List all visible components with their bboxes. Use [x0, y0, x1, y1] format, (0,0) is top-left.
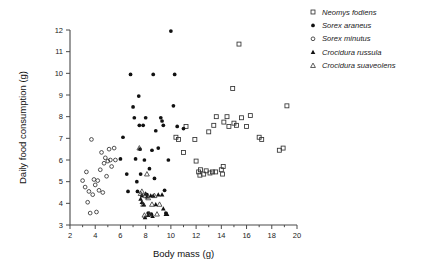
data-point: [153, 177, 157, 181]
data-point: [137, 94, 141, 98]
legend-entry: Sorex minutus: [311, 34, 371, 43]
data-point: [240, 116, 244, 120]
data-point: [175, 125, 179, 129]
x-tick-label: 4: [93, 231, 97, 240]
x-tick-label: 8: [144, 231, 148, 240]
legend-marker: [311, 50, 316, 54]
data-point: [159, 116, 163, 120]
data-point: [173, 73, 177, 77]
data-point: [100, 151, 104, 155]
legend-marker: [311, 24, 315, 28]
data-point: [136, 190, 140, 194]
legend-label: Crocidura suaveolens: [322, 61, 396, 70]
data-point: [160, 192, 165, 196]
chart-canvas: 34567891011122468101214161820Body mass (…: [0, 0, 440, 276]
data-point: [161, 206, 166, 210]
series-crocidura-suaveolens: [137, 146, 162, 218]
x-tick-label: 10: [167, 231, 175, 240]
x-tick-label: 6: [118, 231, 122, 240]
data-point: [151, 73, 155, 77]
data-point: [248, 114, 252, 118]
data-point: [172, 104, 176, 108]
data-point: [141, 123, 145, 127]
legend-entry: Crocidura suaveolens: [311, 61, 396, 70]
data-point: [81, 179, 85, 183]
legend-entry: Sorex araneus: [311, 21, 371, 30]
data-point: [193, 137, 197, 141]
y-tick-label: 4: [59, 199, 63, 208]
y-tick-label: 8: [59, 112, 63, 121]
y-tick-label: 9: [59, 91, 63, 100]
x-tick-label: 12: [192, 231, 200, 240]
data-point: [148, 167, 152, 171]
legend-label: Neomys fodiens: [322, 8, 377, 17]
y-tick-label: 11: [55, 47, 63, 56]
legend-marker: [311, 63, 316, 67]
data-point: [137, 123, 141, 127]
data-point: [143, 158, 147, 162]
data-point: [85, 170, 89, 174]
data-point: [96, 179, 100, 183]
data-point: [135, 180, 139, 184]
series-sorex-araneus: [119, 29, 186, 216]
data-point: [212, 123, 216, 127]
data-point: [126, 190, 130, 194]
data-point: [129, 73, 133, 77]
data-point: [119, 157, 123, 161]
data-point: [114, 158, 118, 162]
y-tick-label: 12: [55, 26, 63, 35]
data-point: [150, 148, 154, 152]
legend-label: Crocidura russula: [322, 48, 382, 57]
data-point: [101, 191, 105, 195]
data-point: [154, 129, 158, 133]
data-point: [86, 200, 90, 204]
legend-marker: [311, 10, 315, 14]
legend-marker: [311, 37, 315, 41]
legend-label: Sorex araneus: [322, 21, 372, 30]
y-tick-label: 7: [59, 134, 63, 143]
data-point: [166, 158, 170, 162]
data-point: [98, 168, 102, 172]
y-tick-label: 3: [59, 221, 63, 230]
data-point: [227, 124, 231, 128]
x-tick-label: 14: [217, 231, 225, 240]
data-point: [182, 127, 186, 131]
data-point: [207, 130, 211, 134]
data-point: [245, 124, 249, 128]
y-tick-label: 5: [59, 177, 63, 186]
data-point: [110, 165, 114, 169]
data-point: [131, 105, 135, 109]
data-point: [83, 185, 87, 189]
data-point: [285, 104, 289, 108]
data-point: [225, 115, 229, 119]
data-point: [139, 172, 143, 176]
data-point: [161, 123, 165, 127]
data-point: [150, 202, 155, 206]
data-point: [87, 190, 91, 194]
data-point: [194, 159, 198, 163]
data-point: [144, 116, 148, 120]
data-point: [157, 202, 162, 206]
data-point: [155, 212, 160, 216]
data-point: [125, 172, 129, 176]
x-axis-title: Body mass (g): [153, 248, 214, 259]
data-point: [237, 42, 241, 46]
legend-entry: Crocidura russula: [311, 48, 382, 57]
series-sorex-minutus: [81, 138, 118, 215]
x-tick-label: 18: [268, 231, 276, 240]
data-point: [145, 172, 150, 176]
data-point: [112, 146, 116, 150]
y-tick-label: 10: [55, 69, 63, 78]
data-point: [105, 174, 109, 178]
legend-label: Sorex minutus: [322, 34, 371, 43]
data-point: [231, 87, 235, 91]
data-point: [90, 138, 94, 142]
data-point: [163, 188, 167, 192]
data-point: [156, 192, 161, 196]
x-tick-label: 2: [68, 231, 72, 240]
x-tick-label: 16: [242, 231, 250, 240]
data-point: [160, 119, 164, 123]
data-point: [88, 211, 92, 215]
data-point: [222, 120, 226, 124]
x-tick-label: 20: [293, 231, 301, 240]
